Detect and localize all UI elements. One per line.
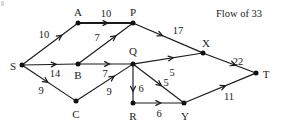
node-dot-R	[131, 101, 136, 106]
node-label-X: X	[202, 38, 210, 49]
edge-Y-T	[185, 74, 254, 103]
edge-flow-label-R-Y: 6	[156, 109, 161, 120]
node-dot-P	[131, 21, 136, 26]
edge-flow-label-Q-Y: 5	[163, 78, 168, 89]
node-dot-Y	[182, 101, 187, 106]
edge-Q-X	[134, 53, 201, 64]
edge-S-A	[23, 24, 77, 64]
flow-caption: Flow of 33	[216, 9, 262, 20]
node-dot-B	[76, 62, 81, 67]
edge-flow-label-B-Q: 7	[102, 69, 107, 80]
node-dot-X	[201, 51, 206, 56]
network-flow-diagram: SAPBCQRXYT 10149107791756562211 Flow of …	[0, 0, 286, 126]
edge-X-T	[204, 53, 254, 72]
node-label-S: S	[10, 61, 16, 72]
node-label-A: A	[74, 7, 82, 18]
edge-flow-label-Q-X: 5	[169, 68, 174, 79]
edge-flow-label-Y-T: 11	[224, 92, 234, 103]
edge-flow-label-C-Q: 9	[106, 87, 111, 98]
edge-P-X	[134, 23, 201, 52]
node-label-R: R	[129, 111, 136, 122]
node-dot-C	[74, 99, 79, 104]
edge-flow-label-X-T: 22	[233, 57, 244, 68]
edge-flow-label-S-C: 9	[38, 86, 43, 97]
edge-flow-label-S-B: 14	[50, 69, 61, 80]
node-label-P: P	[130, 7, 136, 18]
node-dot-T	[254, 71, 259, 76]
edge-flow-label-B-P: 7	[94, 33, 99, 44]
node-label-Y: Y	[181, 111, 189, 122]
edge-flow-label-S-A: 10	[39, 30, 50, 41]
node-label-B: B	[74, 70, 81, 81]
node-dot-A	[76, 21, 81, 26]
node-label-Q: Q	[129, 46, 137, 57]
node-dot-S	[20, 63, 25, 68]
node-label-T: T	[263, 69, 270, 80]
edge-B-P	[79, 24, 132, 63]
node-dot-Q	[131, 62, 136, 67]
edge-flow-label-P-X: 17	[173, 26, 184, 37]
node-label-C: C	[72, 109, 79, 120]
edge-flow-label-Q-R: 6	[138, 84, 143, 95]
edge-S-B	[23, 64, 76, 65]
edge-flow-label-A-P: 10	[101, 9, 112, 20]
